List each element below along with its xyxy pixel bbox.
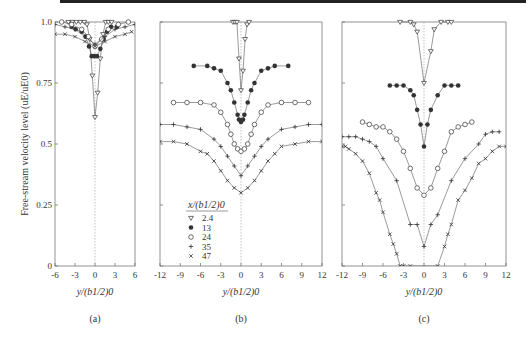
- cross-marker: [463, 189, 467, 193]
- x-tick-label: 3: [113, 270, 118, 280]
- panel-b: -12-9-6-3036912y/(b1/2)0(b)x/(b1/2)02.41…: [154, 20, 327, 325]
- plus-marker: [225, 154, 229, 158]
- panel-caption: (b): [235, 313, 247, 325]
- open-circle-marker: [394, 137, 399, 142]
- open-circle-marker: [293, 100, 298, 105]
- plus-marker: [306, 122, 310, 126]
- triangle-down-open-marker: [237, 57, 242, 61]
- triangle-down-open-marker: [449, 20, 454, 24]
- x-tick-label: 0: [422, 270, 427, 280]
- cross-marker: [361, 159, 365, 163]
- cross-marker: [205, 152, 209, 156]
- cross-marker: [226, 179, 230, 183]
- open-circle-marker: [171, 100, 176, 105]
- open-circle-marker: [266, 103, 271, 108]
- open-circle-marker: [232, 142, 237, 147]
- open-circle-marker: [212, 103, 217, 108]
- cross-marker: [381, 211, 385, 215]
- filled-circle-marker: [205, 64, 210, 69]
- plus-marker: [353, 134, 357, 138]
- open-circle-marker: [408, 166, 413, 171]
- filled-circle-marker: [242, 112, 247, 117]
- series-line-13: [72, 27, 117, 56]
- x-tick-label: 0: [239, 270, 244, 280]
- cross-marker: [273, 152, 277, 156]
- plus-marker: [239, 174, 243, 178]
- y-tick-label: 0.5: [41, 139, 53, 149]
- cross-marker: [83, 40, 87, 44]
- plus-marker: [53, 22, 57, 26]
- open-circle-marker: [218, 110, 223, 115]
- plus-marker: [347, 134, 351, 138]
- x-tick-label: 9: [300, 270, 305, 280]
- plus-marker: [340, 134, 344, 138]
- x-tick-label: -6: [379, 270, 387, 280]
- figure: 00.250.50.751.0-6-3036y/(b1/2)0(a)-12-9-…: [0, 0, 528, 338]
- open-circle-marker: [69, 22, 74, 27]
- filled-circle-marker: [191, 64, 196, 69]
- open-circle-marker: [185, 100, 190, 105]
- x-tick-label: -6: [197, 270, 205, 280]
- legend-entry: 35: [202, 242, 212, 252]
- series-group: [340, 20, 508, 267]
- filled-circle-marker: [229, 88, 234, 93]
- plus-marker: [381, 156, 385, 160]
- filled-circle-marker: [456, 83, 461, 88]
- plus-marker: [360, 137, 364, 141]
- open-circle-marker: [225, 122, 230, 127]
- open-circle-marker: [422, 193, 427, 198]
- x-tick-label: 6: [133, 270, 138, 280]
- filled-circle-marker: [259, 69, 264, 74]
- triangle-down-open-marker: [189, 216, 194, 220]
- y-tick-label: 1.0: [41, 17, 53, 27]
- series-line-2.4: [400, 22, 451, 83]
- triangle-down-open-marker: [428, 50, 433, 54]
- triangle-down-open-marker: [109, 20, 114, 24]
- cross-marker: [212, 159, 216, 163]
- x-tick-label: -12: [336, 270, 348, 280]
- x-axis-label: y/(b1/2)0: [76, 286, 114, 298]
- filled-circle-marker: [241, 117, 246, 122]
- cross-marker: [253, 179, 257, 183]
- triangle-down-open-marker: [241, 69, 246, 73]
- open-circle-marker: [456, 125, 461, 130]
- open-circle-marker: [470, 120, 475, 125]
- y-tick-label: 0.75: [36, 78, 52, 88]
- plus-marker: [171, 122, 175, 126]
- plus-marker: [293, 125, 297, 129]
- cross-marker: [73, 35, 77, 39]
- open-circle-marker: [415, 186, 420, 191]
- open-circle-marker: [126, 20, 131, 25]
- open-circle-marker: [229, 132, 234, 137]
- panel-caption: (c): [418, 313, 429, 325]
- cross-marker: [347, 147, 351, 151]
- filled-circle-marker: [235, 112, 240, 117]
- plus-marker: [279, 127, 283, 131]
- filled-circle-marker: [429, 108, 434, 113]
- x-tick-label: -12: [154, 270, 166, 280]
- triangle-down-open-marker: [411, 23, 416, 27]
- triangle-down-open-marker: [398, 20, 403, 24]
- triangle-down-open-marker: [239, 89, 244, 93]
- filled-circle-marker: [232, 100, 237, 105]
- filled-circle-marker: [401, 83, 406, 88]
- open-circle-marker: [367, 122, 372, 127]
- open-circle-marker: [259, 110, 264, 115]
- filled-circle-marker: [95, 54, 100, 59]
- x-axis-label: y/(b1/2)0: [222, 286, 260, 298]
- chart-panels: 00.250.50.751.0-6-3036y/(b1/2)0(a)-12-9-…: [36, 17, 510, 325]
- plus-marker: [367, 139, 371, 143]
- cross-marker: [368, 172, 372, 176]
- filled-circle-marker: [87, 44, 92, 49]
- x-tick-label: 3: [259, 270, 264, 280]
- cross-marker: [354, 152, 358, 156]
- filled-circle-marker: [435, 93, 440, 98]
- plus-marker: [449, 178, 453, 182]
- open-circle-marker: [442, 149, 447, 154]
- triangle-down-open-marker: [243, 37, 248, 41]
- cross-marker: [456, 198, 460, 202]
- filled-circle-marker: [252, 81, 257, 86]
- plus-marker: [123, 25, 127, 29]
- plus-marker: [394, 178, 398, 182]
- series-line-35: [342, 132, 499, 247]
